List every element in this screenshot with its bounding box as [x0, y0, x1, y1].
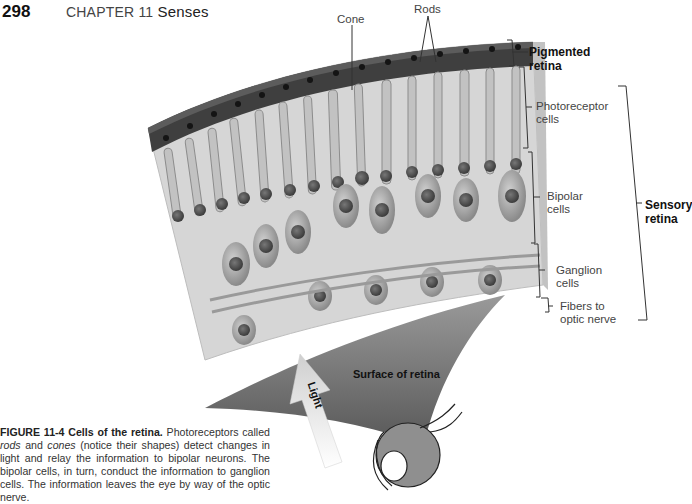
- label-bipolar-cells: Bipolar cells: [547, 190, 583, 216]
- label-cone: Cone: [337, 13, 365, 26]
- label-pigmented-retina: Pigmented retina: [529, 45, 590, 73]
- label-ganglion-cells: Ganglion cells: [556, 264, 602, 290]
- label-rods: Rods: [414, 3, 441, 16]
- caption-figure-title: Cells of the retina.: [68, 426, 162, 438]
- figure-caption: FIGURE 11-4 Cells of the retina. Photore…: [0, 426, 270, 504]
- label-photoreceptor-cells: Photoreceptor cells: [536, 100, 608, 126]
- label-fibers-to-optic-nerve: Fibers to optic nerve: [560, 300, 616, 326]
- label-surface-of-retina: Surface of retina: [353, 367, 440, 381]
- caption-figure-id: FIGURE 11-4: [0, 426, 64, 438]
- label-sensory-retina: Sensory retina: [645, 198, 692, 226]
